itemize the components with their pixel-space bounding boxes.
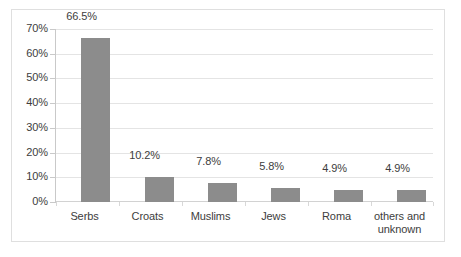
y-tick-40 (50, 103, 55, 104)
gridline-20 (56, 153, 433, 154)
y-tick-50 (50, 78, 55, 79)
x-axis-label-roma: Roma (302, 210, 371, 223)
x-tick-5 (371, 202, 372, 206)
y-tick-30 (50, 128, 55, 129)
y-axis-label-40: 40% (14, 97, 48, 108)
data-label-jews: 5.8% (244, 160, 299, 172)
bar-jews[interactable] (271, 188, 300, 202)
gridline-50 (56, 78, 433, 79)
bar-others[interactable] (397, 190, 426, 202)
gridline-60 (56, 54, 433, 55)
data-label-others: 4.9% (370, 162, 425, 174)
data-label-serbs: 66.5% (54, 10, 109, 22)
y-axis-label-20: 20% (14, 147, 48, 158)
x-axis-label-others: others and unknown (365, 210, 434, 236)
x-tick-4 (308, 202, 309, 206)
data-label-muslims: 7.8% (181, 155, 236, 167)
gridline-30 (56, 128, 433, 129)
x-tick-3 (245, 202, 246, 206)
chart-frame: 70% 60% 50% 40% 30% 20% 10% 0% (11, 9, 445, 242)
x-axis-label-croats: Croats (113, 210, 182, 223)
y-axis-label-10: 10% (14, 171, 48, 182)
x-tick-6 (433, 202, 434, 206)
y-tick-20 (50, 153, 55, 154)
plot-area (56, 29, 433, 202)
bar-roma[interactable] (334, 190, 363, 202)
x-axis-label-jews: Jews (239, 210, 308, 223)
y-axis-label-30: 30% (14, 122, 48, 133)
gridline-40 (56, 103, 433, 104)
bar-croats[interactable] (145, 177, 174, 202)
bar-serbs[interactable] (81, 38, 110, 202)
y-axis-label-60: 60% (14, 48, 48, 59)
y-tick-70 (50, 29, 55, 30)
y-tick-0 (50, 202, 55, 203)
data-label-croats: 10.2% (117, 149, 172, 161)
x-axis-label-serbs: Serbs (50, 210, 119, 223)
y-axis-label-0: 0% (14, 196, 48, 207)
y-tick-10 (50, 177, 55, 178)
gridline-10 (56, 177, 433, 178)
y-axis-label-70: 70% (14, 23, 48, 34)
x-axis-label-muslims: Muslims (176, 210, 245, 223)
gridline-0 (56, 201, 433, 202)
bar-muslims[interactable] (208, 183, 237, 202)
x-tick-2 (182, 202, 183, 206)
gridline-70 (56, 29, 433, 30)
x-tick-0 (56, 202, 57, 206)
data-label-roma: 4.9% (307, 162, 362, 174)
y-tick-60 (50, 54, 55, 55)
y-axis-label-50: 50% (14, 72, 48, 83)
x-tick-1 (119, 202, 120, 206)
